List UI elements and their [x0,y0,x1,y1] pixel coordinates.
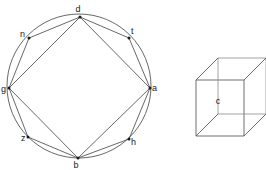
graph-edge-g-d [9,17,80,88]
cube-edge-group [196,58,266,136]
graph-node-g[interactable] [8,87,11,90]
node-label-d: d [75,4,80,14]
graph-edge-a-h [129,88,150,139]
graph-edge-a-b [78,88,150,158]
cube-edge-connect-tr [244,58,266,80]
cube-edge-connect-br [244,114,266,136]
diagram-canvas: d t a h b z g n c [0,0,266,170]
graph-label-group: d t a h b z g n [1,4,157,170]
graph-node-z[interactable] [27,136,30,139]
graph-node-d[interactable] [79,16,82,19]
graph-edge-b-g [9,88,78,158]
graph-edge-d-a [80,17,150,88]
graph-edge-b-z [28,137,78,158]
node-label-b: b [73,160,78,170]
node-label-g: g [1,84,6,94]
node-label-z: z [21,133,26,143]
node-label-h: h [131,137,136,147]
cube-label: c [216,96,221,106]
graph-edge-h-b [78,139,129,158]
graph-node-t[interactable] [128,37,131,40]
graph-node-group [8,16,152,160]
graph-node-n[interactable] [28,37,31,40]
cube-edge-connect-bl [196,114,218,136]
cube-figure: c [196,58,266,136]
circular-graph-figure: d t a h b z g n [1,4,157,170]
node-label-n: n [20,29,25,39]
node-label-a: a [152,83,157,93]
cube-edge-connect-tl [196,58,218,80]
node-label-t: t [131,26,134,36]
